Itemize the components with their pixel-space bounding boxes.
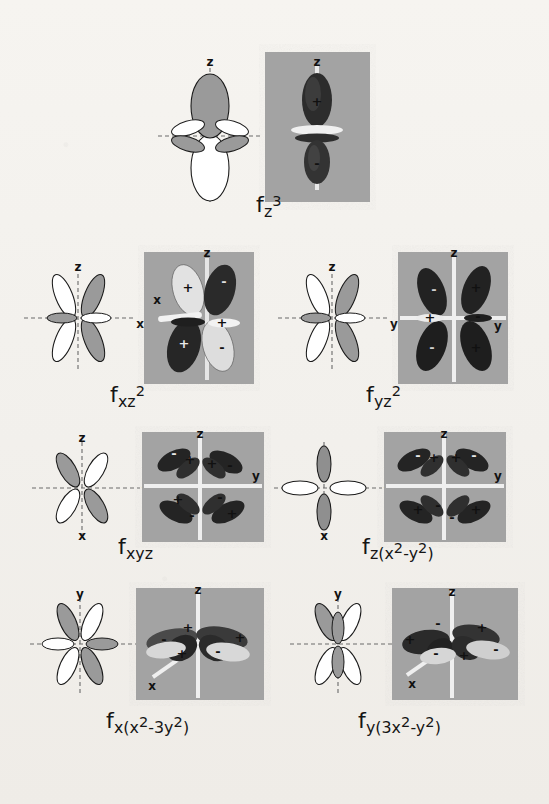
photo-axis-label-y: y bbox=[494, 469, 502, 483]
axis-label-z: z bbox=[75, 260, 82, 274]
orbital-entry-fx-x2-3y2: y x bbox=[28, 588, 278, 700]
diagram-svg-fz3: z bbox=[150, 56, 270, 206]
sign-6: - bbox=[493, 642, 498, 657]
caption-base: f bbox=[358, 708, 366, 733]
sign-2: - bbox=[221, 274, 226, 289]
caption-superscript-2: 2 bbox=[173, 714, 182, 730]
sign-1: - bbox=[415, 448, 420, 463]
sign-4: - bbox=[471, 448, 476, 463]
photo-axis-label-z: z bbox=[197, 427, 204, 441]
diagram-fxz2: z x bbox=[18, 260, 146, 378]
lobe-lower-left bbox=[52, 486, 85, 527]
sign-1: + bbox=[183, 620, 194, 635]
caption-subscript: y(3x bbox=[366, 718, 401, 737]
sign-4: + bbox=[235, 630, 246, 645]
photo-svg-fx-x2-3y2: z x + - + + - bbox=[136, 588, 264, 700]
diagram-svg-fyz2: z y bbox=[272, 260, 400, 378]
caption-subscript-2: -3y bbox=[148, 718, 173, 737]
sign-6: - bbox=[435, 498, 440, 513]
diagram-fz-x2-y2: y x bbox=[272, 436, 392, 542]
axis-label-y: y bbox=[334, 587, 342, 601]
sign-3: + bbox=[451, 450, 462, 465]
photo-fz3: z + - bbox=[265, 52, 370, 202]
caption-fz-x2-y2: fz(x2-y2) bbox=[362, 534, 434, 563]
caption-superscript-2: 2 bbox=[418, 540, 427, 556]
sign-1: - bbox=[431, 282, 436, 297]
caption-subscript: z(x bbox=[370, 544, 394, 563]
axis-label-z: z bbox=[79, 431, 86, 445]
photo-fx-x2-3y2: z x + - + + - bbox=[136, 588, 264, 700]
sign-5: + bbox=[179, 336, 190, 351]
caption-fxz2: fxz2 bbox=[110, 382, 145, 411]
axis-label-x: x bbox=[78, 529, 86, 543]
caption-fyz2: fyz2 bbox=[366, 382, 401, 411]
orbital-entry-fyz2: z y bbox=[272, 252, 512, 384]
caption-fy-3x2-y2: fy(3x2-y2) bbox=[358, 708, 441, 737]
model-rod-y bbox=[386, 484, 504, 488]
lobe-axis-right bbox=[81, 313, 111, 323]
photo-fxyz: z y - + + - + - - + bbox=[142, 432, 264, 542]
sign-7: - bbox=[189, 508, 194, 523]
sign-4: - bbox=[433, 646, 438, 661]
caption-base: f bbox=[366, 382, 374, 407]
photo-svg-fxyz: z y - + + - + - - + bbox=[142, 432, 264, 542]
photo-axis-label-z: z bbox=[204, 246, 211, 260]
caption-fxyz: fxyz bbox=[118, 534, 153, 563]
lobe-up bbox=[317, 446, 331, 482]
sign-6: - bbox=[219, 340, 224, 355]
sign-4: + bbox=[217, 315, 228, 330]
lobe-axis-right bbox=[335, 313, 365, 323]
photo-axis-label-x: x bbox=[148, 679, 156, 693]
photo-fxz2: z x + - - + + - bbox=[144, 252, 254, 384]
caption-fx-x2-3y2: fx(x2-3y2) bbox=[106, 708, 189, 737]
caption-superscript: 2 bbox=[136, 383, 145, 399]
lobe-lower-right bbox=[77, 644, 108, 687]
lobe-axis-up bbox=[332, 612, 344, 644]
sign-3: + bbox=[405, 632, 416, 647]
caption-closing-paren: ) bbox=[183, 718, 189, 737]
lobe-left bbox=[282, 481, 318, 495]
lobe-upper-right bbox=[77, 600, 108, 643]
diagram-fxyz: z y x bbox=[30, 436, 150, 542]
sign-5: + bbox=[413, 502, 424, 517]
diagram-fyz2: z y bbox=[272, 260, 400, 378]
sign-1: - bbox=[435, 616, 440, 631]
caption-fz3: fz3 bbox=[256, 192, 282, 221]
caption-base: f bbox=[110, 382, 118, 407]
sign-3: + bbox=[207, 456, 218, 471]
caption-base: f bbox=[106, 708, 114, 733]
caption-closing-paren: ) bbox=[428, 544, 434, 563]
caption-base: f bbox=[118, 534, 126, 559]
caption-subscript-2: -y bbox=[403, 544, 418, 563]
sign-2: + bbox=[185, 452, 196, 467]
photo-axis-label-x: x bbox=[153, 293, 161, 307]
diagram-svg-fxyz: z y x bbox=[30, 436, 150, 542]
sign-2: + bbox=[429, 450, 440, 465]
caption-superscript: 2 bbox=[394, 540, 403, 556]
caption-closing-paren: ) bbox=[435, 718, 441, 737]
lobe-lower-left bbox=[53, 644, 84, 687]
caption-base: f bbox=[256, 192, 264, 217]
sign-5: - bbox=[429, 340, 434, 355]
sign-5: + bbox=[173, 492, 184, 507]
lobe-axis-right bbox=[86, 638, 118, 650]
orbital-entry-fy-3x2-y2: y x bbox=[288, 588, 538, 700]
sign-8: + bbox=[227, 506, 238, 521]
model-lobe-axis-left bbox=[171, 318, 205, 327]
caption-superscript: 2 bbox=[392, 383, 401, 399]
caption-subscript: yz bbox=[374, 392, 392, 411]
axis-label-z: z bbox=[207, 55, 214, 69]
orbital-entry-fz-x2-y2: y x bbox=[272, 432, 522, 542]
lobe-upper-left bbox=[52, 450, 85, 491]
sign-2: - bbox=[161, 632, 166, 647]
photo-svg-fxz2: z x + - - + + - bbox=[144, 252, 254, 384]
photo-axis-label-z: z bbox=[449, 585, 456, 599]
sign-7: - bbox=[449, 510, 454, 525]
photo-axis-label-x: x bbox=[408, 677, 416, 691]
diagram-svg-fy-3x2-y2: y x bbox=[288, 592, 404, 700]
axis-label-y: y bbox=[76, 587, 84, 601]
photo-svg-fy-3x2-y2: z x - + + - + - bbox=[392, 588, 518, 700]
sign-3: + bbox=[425, 310, 436, 325]
photo-axis-label-z: z bbox=[441, 427, 448, 441]
lobe-axis-left bbox=[47, 313, 77, 323]
